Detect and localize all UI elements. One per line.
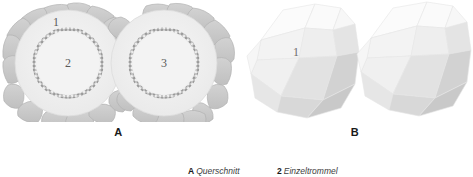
annotation-3: 3 <box>161 56 167 70</box>
caption-legend: AQuerschnitt 2Einzeltrommel <box>0 166 473 177</box>
caption-text-a: Querschnitt <box>196 166 239 176</box>
panel-b-letter: B <box>237 126 473 138</box>
cross-section-diagram: 1 2 3 <box>0 0 237 122</box>
annotation-1-panel-b: 1 <box>293 45 299 59</box>
caption-item-a: AQuerschnitt <box>188 166 240 177</box>
figure-root: 1 2 3 A <box>0 0 473 177</box>
cross-section-right-unit <box>108 3 235 122</box>
annotation-1: 1 <box>53 15 59 29</box>
polyhedron-pair-diagram: 1 <box>237 0 473 122</box>
panel-a-artwork: 1 2 3 <box>0 0 237 122</box>
panel-a: 1 2 3 A <box>0 0 237 145</box>
panel-a-letter: A <box>0 126 237 138</box>
caption-key-a: A <box>188 166 194 176</box>
polyhedron-left <box>247 4 359 118</box>
panel-b-artwork: 1 <box>237 0 473 122</box>
panel-b: 1 B <box>237 0 473 145</box>
caption-item-b: 2Einzeltrommel <box>277 166 338 177</box>
polyhedron-right <box>357 2 471 116</box>
caption-key-b: 2 <box>277 166 282 176</box>
annotation-2: 2 <box>65 56 71 70</box>
caption-text-b: Einzeltrommel <box>284 166 338 176</box>
